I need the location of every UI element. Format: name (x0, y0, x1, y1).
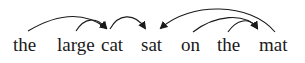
word-the-1: the (13, 34, 36, 56)
word-cat: cat (101, 34, 123, 56)
arc-mat-to-sat (161, 9, 275, 32)
arc-the2-to-mat (228, 21, 257, 32)
arc-on-to-mat (193, 17, 257, 32)
word-on: on (181, 34, 200, 56)
arc-the-to-cat (28, 17, 106, 31)
arc-cat-to-sat (110, 17, 145, 29)
word-mat: mat (259, 34, 288, 56)
arc-large-to-cat (76, 20, 106, 31)
dependency-diagram: the large cat sat on the mat (0, 0, 305, 63)
word-sat: sat (141, 34, 162, 56)
word-the-2: the (217, 34, 240, 56)
word-large: large (57, 34, 95, 56)
